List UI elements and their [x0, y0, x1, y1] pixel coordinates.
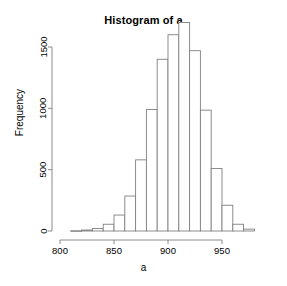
histogram-bar: [200, 110, 211, 231]
x-axis-tick-label: 850: [106, 245, 122, 256]
histogram-bar: [190, 51, 201, 231]
histogram-bar: [244, 229, 255, 231]
histogram-figure: Histogram of a Frequency a 0500100015008…: [0, 0, 287, 286]
histogram-bar: [114, 215, 125, 231]
histogram-svg: 050010001500800850900950: [0, 0, 287, 286]
histogram-bar: [71, 231, 82, 232]
x-axis-tick-label: 900: [160, 245, 176, 256]
histogram-bar: [136, 160, 147, 231]
histogram-bar: [168, 35, 179, 231]
plot-area: 050010001500800850900950: [0, 0, 287, 286]
histogram-bar: [82, 230, 93, 231]
histogram-bar: [146, 110, 157, 231]
y-axis: 050010001500: [38, 36, 53, 233]
histogram-bar: [157, 59, 168, 231]
y-axis-tick-label: 500: [38, 162, 49, 178]
x-axis: 800850900950: [52, 240, 230, 256]
x-axis-tick-label: 800: [52, 245, 68, 256]
y-axis-tick-label: 1000: [38, 98, 49, 119]
histogram-bar: [222, 205, 233, 231]
histogram-bar: [179, 22, 190, 231]
histogram-bar: [233, 224, 244, 231]
histogram-bar: [211, 168, 222, 231]
bars-group: [71, 22, 255, 231]
x-axis-tick-label: 950: [214, 245, 230, 256]
y-axis-tick-label: 1500: [38, 36, 49, 57]
histogram-bar: [92, 229, 103, 231]
histogram-bar: [103, 224, 114, 231]
histogram-bar: [125, 196, 136, 231]
y-axis-tick-label: 0: [38, 228, 49, 233]
